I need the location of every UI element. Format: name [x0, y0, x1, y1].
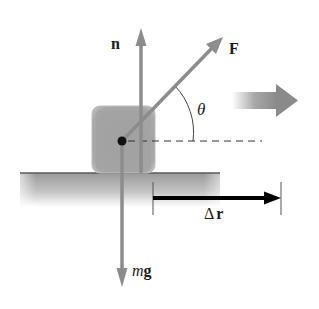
angle-label: θ	[197, 101, 205, 118]
applied-force-label: F	[229, 41, 239, 57]
weight-label: mg	[132, 263, 152, 279]
gravity-symbol: g	[144, 262, 152, 279]
position-symbol: r	[216, 205, 223, 222]
motion-direction-arrow	[232, 84, 298, 117]
ground-surface	[20, 173, 220, 207]
free-body-diagram	[0, 0, 319, 309]
delta-symbol: Δ	[204, 205, 214, 222]
normal-force-label: n	[111, 36, 120, 52]
center-of-mass-dot	[118, 137, 127, 146]
displacement-label: Δr	[204, 206, 223, 222]
mass-symbol: m	[132, 262, 144, 279]
applied-force-arrow	[122, 37, 223, 141]
angle-arc	[175, 86, 194, 141]
